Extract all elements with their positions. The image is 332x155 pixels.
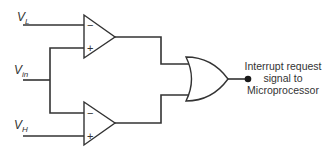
label-vl: VL: [17, 10, 29, 26]
minus-sign: −: [87, 107, 93, 119]
label-vin: Vin: [14, 63, 29, 79]
plus-sign: +: [87, 42, 93, 54]
circuit-svg: VL Vin VH − + − + Interrupt req: [0, 0, 332, 155]
output-label-line3: Microprocessor: [247, 84, 319, 96]
plus-sign: +: [87, 130, 93, 142]
window-comparator-diagram: VL Vin VH − + − + Interrupt req: [0, 0, 332, 155]
wire-vin-branch: [50, 48, 84, 113]
output-label-line1: Interrupt request: [244, 60, 321, 72]
output-node-dot: [245, 76, 252, 83]
label-vh: VH: [14, 118, 28, 134]
wire-lower-output: [115, 95, 190, 123]
wire-upper-output: [115, 37, 190, 64]
comparator-upper: − +: [84, 15, 115, 58]
comparator-lower: − +: [84, 102, 115, 145]
minus-sign: −: [87, 19, 93, 31]
or-gate-icon: [186, 57, 228, 101]
output-label-line2: signal to: [263, 72, 302, 84]
